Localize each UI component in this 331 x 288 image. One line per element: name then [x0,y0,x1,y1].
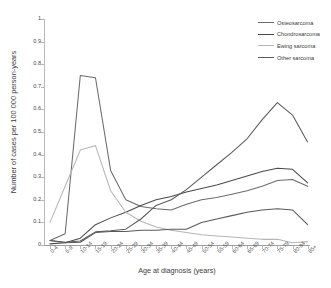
x-tick-mark [111,246,112,249]
x-tick-mark [171,246,172,249]
y-tick-label: 0.5 [20,129,41,135]
y-tick-mark [41,64,44,65]
y-tick-mark [41,222,44,223]
x-tick-mark [95,246,96,249]
y-tick-mark [41,155,44,156]
legend-swatch-line-icon [258,22,274,23]
legend-item-other-sarcoma[interactable]: Other sarcoma [258,52,331,64]
y-tick-label: 0.9 [20,39,41,45]
y-tick-label: 0.2 [20,197,41,203]
x-tick-mark [217,246,218,249]
y-axis-title: Number of cases per 100 000 person-years [10,22,18,222]
legend-swatch-line-icon [258,57,274,58]
y-tick-mark [41,200,44,201]
y-tick-label: 0.8 [20,61,41,67]
y-axis-tick-labels: 00.10.20.30.40.50.60.70.80.91 [20,0,41,288]
x-tick-mark [141,246,142,249]
legend-label: Chondrosarcoma [277,31,320,37]
x-tick-mark [156,246,157,249]
x-tick-mark [80,246,81,249]
y-tick-label: 0.6 [20,106,41,112]
x-tick-mark [247,246,248,249]
x-tick-mark [202,246,203,249]
y-tick-mark [41,132,44,133]
y-tick-label: 0 [20,242,41,248]
sarcoma-incidence-chart: Number of cases per 100 000 person-years… [0,0,331,288]
x-tick-mark [186,246,187,249]
x-tick-mark [232,246,233,249]
x-axis-title: Age at diagnosis (years) [44,266,310,275]
x-tick-mark [262,246,263,249]
series-line-osteosarcoma [50,76,308,241]
legend-label: Osteosarcoma [277,20,313,26]
y-tick-mark [41,42,44,43]
y-tick-label: 1 [20,16,41,22]
x-tick-mark [277,246,278,249]
series-line-other-sarcoma-main [50,103,308,243]
x-tick-mark [50,246,51,249]
y-tick-label: 0.3 [20,174,41,180]
legend-item-chondrosarcoma[interactable]: Chondrosarcoma [258,29,331,41]
x-tick-mark [293,246,294,249]
x-tick-mark [65,246,66,249]
chart-legend: OsteosarcomaChondrosarcomaEwing sarcomaO… [258,17,331,63]
y-tick-label: 0.7 [20,84,41,90]
y-tick-mark [41,109,44,110]
y-tick-label: 0.1 [20,219,41,225]
legend-item-osteosarcoma[interactable]: Osteosarcoma [258,17,331,29]
y-tick-mark [41,87,44,88]
y-tick-label: 0.4 [20,152,41,158]
legend-label: Ewing sarcoma [277,43,315,49]
legend-item-ewing-sarcoma[interactable]: Ewing sarcoma [258,40,331,52]
y-tick-mark [41,177,44,178]
y-tick-mark [41,245,44,246]
legend-label: Other sarcoma [277,55,314,61]
legend-swatch-line-icon [258,34,274,35]
x-tick-mark [308,246,309,249]
legend-swatch-line-icon [258,45,274,46]
y-tick-mark [41,19,44,20]
x-tick-mark [126,246,127,249]
